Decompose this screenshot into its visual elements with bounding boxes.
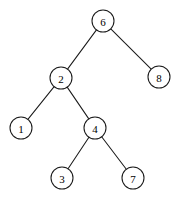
tree-edge — [111, 29, 151, 69]
tree-edge — [67, 87, 89, 119]
tree-canvas: 6281437 — [0, 0, 179, 205]
tree-node: 1 — [10, 117, 32, 139]
tree-node: 7 — [122, 167, 144, 189]
tree-node-label: 4 — [92, 123, 98, 135]
tree-node-label: 6 — [100, 16, 106, 28]
tree-node-label: 8 — [156, 72, 162, 84]
tree-node-label: 3 — [59, 173, 65, 185]
tree-node: 4 — [84, 117, 106, 139]
tree-node-label: 1 — [18, 123, 24, 135]
tree-node: 3 — [51, 167, 73, 189]
tree-edge — [102, 137, 127, 169]
edge-layer — [28, 29, 151, 169]
tree-node-label: 2 — [58, 73, 64, 85]
tree-node-label: 7 — [130, 173, 136, 185]
node-layer: 6281437 — [10, 10, 170, 189]
tree-edge — [68, 137, 89, 169]
tree-edge — [28, 87, 54, 120]
tree-node: 8 — [148, 66, 170, 88]
tree-edge — [68, 30, 97, 69]
tree-node: 2 — [50, 67, 72, 89]
tree-node: 6 — [92, 10, 114, 32]
binary-tree-figure: 6281437 — [0, 0, 179, 205]
